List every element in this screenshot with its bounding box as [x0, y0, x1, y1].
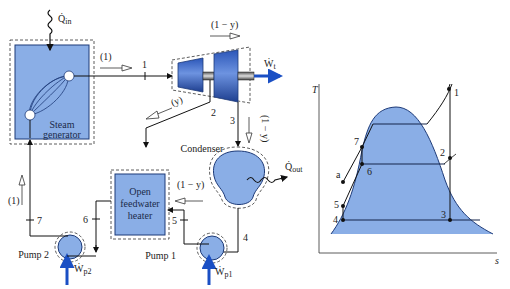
steam-generator-label-2: generator [43, 129, 81, 140]
fwh-label-3: heater [128, 210, 153, 221]
pump-2-label: Pump 2 [18, 249, 49, 260]
fwh-label-2: feedwater [120, 198, 160, 209]
turbine [172, 47, 254, 103]
point-7 [360, 145, 364, 149]
pump-1 [197, 233, 227, 263]
point-6 [360, 162, 364, 166]
pump-1-work-sub: p1 [224, 270, 232, 279]
point-1 [447, 87, 451, 91]
q-in-sub: in [65, 17, 71, 26]
point-a [341, 180, 345, 184]
flow-arrow-fwh-icon [175, 198, 203, 204]
flow-arrow-top-icon [210, 33, 240, 39]
point-4 [341, 218, 345, 222]
point-3 [448, 218, 452, 222]
state-2-label: 2 [211, 107, 216, 118]
svg-text:Q̇in: Q̇in [58, 13, 71, 26]
turbine-stage-2 [214, 50, 238, 102]
svg-text:Ẇp2: Ẇp2 [74, 263, 91, 276]
pump-2-work-sub: p2 [83, 267, 91, 276]
turbine-work-sub: t [273, 62, 276, 71]
condenser [210, 147, 269, 208]
svg-text:Ẇt: Ẇt [264, 58, 276, 71]
fwh-label-1: Open [129, 186, 151, 197]
q-out-sub: out [292, 165, 303, 174]
flow-arrow-left-icon [19, 175, 25, 205]
diagram-canvas: Steam generator Q̇in 1 (1) Ẇt (1 − y) 2 … [0, 0, 510, 289]
state-4-label: 4 [243, 232, 248, 243]
flow-1-left-label: (1) [8, 195, 20, 207]
flow-1-minus-y-cond-label: (1 − y) [259, 115, 271, 142]
state-3-label: 3 [230, 115, 235, 126]
s-axis-label: s [495, 255, 499, 266]
turbine-stage-1 [178, 58, 203, 92]
ts-label-4: 4 [333, 214, 338, 225]
line-state-6 [94, 201, 111, 249]
ts-label-3: 3 [441, 209, 446, 220]
flow-y-label: (y) [169, 94, 184, 109]
state-1-label: 1 [142, 59, 147, 70]
svg-text:Ẇp1: Ẇp1 [215, 266, 232, 279]
flow-arrow-down-icon [246, 117, 252, 143]
point-5 [341, 204, 345, 208]
pump-1-label: Pump 1 [145, 250, 176, 261]
flow-1-minus-y-fwh-label: (1 − y) [177, 179, 204, 191]
state-6-label: 6 [83, 214, 88, 225]
ts-diagram: T s 1 2 3 4 5 6 7 a [310, 40, 510, 289]
line-state-7 [30, 140, 68, 236]
ts-label-2: 2 [440, 147, 445, 158]
flow-1-minus-y-top-label: (1 − y) [211, 19, 238, 31]
condenser-label: Condenser [181, 143, 224, 154]
flow-arrow-1-icon [100, 65, 132, 71]
ts-label-5: 5 [334, 199, 339, 210]
heat-input-icon: Q̇in [48, 10, 71, 50]
state-7-label: 7 [37, 215, 42, 226]
steam-generator: Steam generator [10, 40, 94, 144]
ts-label-a: a [336, 169, 341, 180]
ts-label-6: 6 [367, 166, 372, 177]
ts-label-7: 7 [354, 136, 359, 147]
flow-1-label: (1) [100, 51, 112, 63]
flow-arrow-y-icon [146, 108, 172, 119]
point-2 [448, 156, 452, 160]
state-5-label: 5 [172, 215, 177, 226]
turbine-shaft [238, 72, 254, 80]
svg-text:Q̇out: Q̇out [285, 161, 303, 174]
ts-label-1: 1 [454, 87, 459, 98]
